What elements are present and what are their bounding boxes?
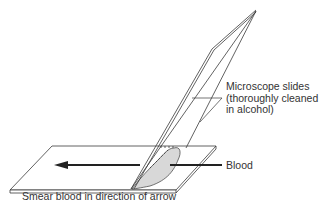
caption: Smear blood in direction of arrow [22, 191, 176, 203]
slides-label: Microscope slides (thoroughly cleaned in… [226, 81, 318, 116]
slides-leader-lines [192, 98, 222, 122]
slides-label-line1: Microscope slides [226, 81, 318, 93]
blood-label: Blood [226, 160, 253, 172]
bottom-slide [10, 146, 216, 193]
slides-label-line3: in alcohol) [226, 104, 318, 116]
